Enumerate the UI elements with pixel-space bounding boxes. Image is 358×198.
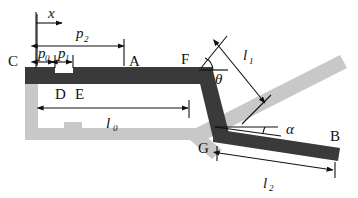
angle-theta-label: θ xyxy=(215,71,223,87)
point-label-C: C xyxy=(8,53,18,69)
point-label-G: G xyxy=(198,140,209,156)
dim-p2-subscript: 2 xyxy=(84,34,89,44)
dim-l2-label: l xyxy=(263,175,267,191)
dim-p2-group: p 2 xyxy=(37,25,124,66)
point-label-D: D xyxy=(55,86,66,102)
dark-link-main-arm xyxy=(25,67,200,84)
point-label-E: E xyxy=(75,86,84,102)
dim-l1-label: l xyxy=(243,47,247,63)
x-axis-label: x xyxy=(47,5,55,21)
point-label-A: A xyxy=(129,53,140,69)
point-label-B: B xyxy=(330,128,340,144)
angle-alpha-arc xyxy=(263,127,265,133)
figure-canvas: x p 2 p 0 p 1 l 0 xyxy=(0,0,358,198)
dim-l0-label: l xyxy=(106,115,110,131)
dim-l1-line xyxy=(217,44,265,103)
dim-p1-group: p 1 xyxy=(57,45,73,68)
dark-link-gb-arm xyxy=(213,129,340,161)
point-label-F: F xyxy=(181,51,189,67)
angle-alpha-label: α xyxy=(286,121,295,137)
dim-p0-group: p 0 xyxy=(37,14,55,68)
dim-l1-subscript: 1 xyxy=(249,56,254,66)
dim-l0-subscript: 0 xyxy=(113,123,118,133)
dim-p0-subscript: 0 xyxy=(45,53,50,63)
linkage-diagram: x p 2 p 0 p 1 l 0 xyxy=(0,0,358,198)
light-link-lower-arm xyxy=(25,122,222,159)
dim-p2-label: p xyxy=(75,25,84,41)
dim-l2-subscript: 2 xyxy=(269,183,274,193)
dim-p1-subscript: 1 xyxy=(65,53,70,63)
